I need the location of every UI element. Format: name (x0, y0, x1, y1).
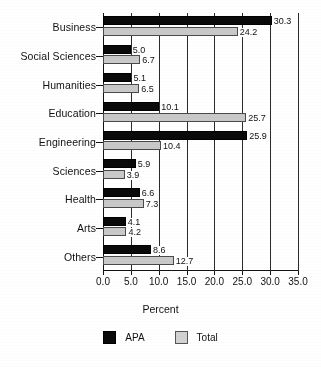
x-tick-label: 20.0 (205, 277, 224, 287)
x-tick-label: 10.0 (149, 277, 168, 287)
bar-group: 30.324.2 (103, 13, 298, 42)
bar-apa: 5.9 (103, 159, 136, 168)
bar-value-label: 8.6 (152, 246, 167, 255)
bar-value-label: 24.2 (239, 28, 259, 37)
bar-value-label: 4.2 (127, 228, 142, 237)
bar-total: 4.2 (103, 227, 126, 236)
x-tick-label: 15.0 (177, 277, 196, 287)
y-tick (96, 113, 103, 114)
bar-value-label: 25.9 (248, 132, 268, 141)
y-tick (96, 142, 103, 143)
x-tick (131, 271, 132, 275)
plot-area: 30.324.25.06.75.16.510.125.725.910.45.93… (103, 13, 298, 271)
bar-group: 6.67.3 (103, 185, 298, 214)
x-tick (242, 271, 243, 275)
bar-group: 4.14.2 (103, 214, 298, 243)
bar-group: 5.06.7 (103, 42, 298, 71)
bar-value-label: 6.6 (141, 189, 156, 198)
bar-apa: 6.6 (103, 188, 140, 197)
bar-total: 7.3 (103, 199, 144, 208)
y-tick (96, 56, 103, 57)
bar-total: 25.7 (103, 113, 246, 122)
y-tick (96, 85, 103, 86)
x-tick-label: 25.0 (233, 277, 252, 287)
x-tick (103, 271, 104, 275)
category-label: Arts (77, 222, 96, 234)
category-label: Humanities (42, 79, 96, 91)
gridline (298, 13, 299, 271)
gray-square-swatch (175, 331, 188, 344)
x-tick-label: 35.0 (288, 277, 307, 287)
category-label: Engineering (39, 136, 96, 148)
y-tick (96, 228, 103, 229)
bar-apa: 4.1 (103, 217, 126, 226)
y-tick (96, 171, 103, 172)
category-label: Health (65, 193, 96, 205)
bar-value-label: 5.0 (132, 46, 147, 55)
bar-group: 5.93.9 (103, 156, 298, 185)
bar-total: 12.7 (103, 256, 174, 265)
category-label: Business (53, 21, 96, 33)
black-square-swatch (103, 331, 116, 344)
bar-value-label: 6.5 (140, 85, 155, 94)
bar-apa: 5.0 (103, 45, 131, 54)
legend-item-total: Total (175, 331, 218, 344)
bar-total: 3.9 (103, 170, 125, 179)
legend-label-total: Total (197, 332, 218, 343)
x-tick (270, 271, 271, 275)
y-tick (96, 27, 103, 28)
legend-item-apa: APA (103, 331, 144, 344)
bar-apa: 25.9 (103, 131, 247, 140)
legend-label-apa: APA (125, 332, 144, 343)
bar-value-label: 5.1 (132, 74, 147, 83)
bar-apa: 8.6 (103, 245, 151, 254)
bar-value-label: 5.9 (137, 160, 152, 169)
category-label: Social Sciences (20, 50, 96, 62)
bar-value-label: 7.3 (145, 200, 160, 209)
y-tick (96, 257, 103, 258)
bar-value-label: 4.1 (127, 218, 142, 227)
bar-value-label: 30.3 (273, 17, 293, 26)
bar-apa: 5.1 (103, 73, 131, 82)
x-tick (298, 271, 299, 275)
x-axis-title: Percent (0, 303, 321, 315)
bar-group: 25.910.4 (103, 128, 298, 157)
category-label: Others (64, 251, 96, 263)
category-label: Education (48, 107, 96, 119)
bar-value-label: 6.7 (141, 56, 156, 65)
bar-apa: 30.3 (103, 16, 272, 25)
bar-total: 6.5 (103, 84, 139, 93)
x-tick (187, 271, 188, 275)
category-label: Sciences (53, 165, 96, 177)
bar-group: 10.125.7 (103, 99, 298, 128)
bar-value-label: 10.4 (162, 142, 182, 151)
x-tick (214, 271, 215, 275)
bar-apa: 10.1 (103, 102, 159, 111)
bar-group: 8.612.7 (103, 242, 298, 271)
x-tick-label: 5.0 (124, 277, 138, 287)
bar-value-label: 10.1 (160, 103, 180, 112)
bar-value-label: 3.9 (126, 171, 141, 180)
x-tick-label: 0.0 (96, 277, 110, 287)
bar-group: 5.16.5 (103, 70, 298, 99)
bar-total: 6.7 (103, 55, 140, 64)
x-tick-label: 30.0 (260, 277, 279, 287)
bar-total: 24.2 (103, 27, 238, 36)
bar-chart: 30.324.25.06.75.16.510.125.725.910.45.93… (0, 0, 321, 367)
chart-legend: APA Total (0, 331, 321, 344)
y-tick (96, 199, 103, 200)
x-tick (159, 271, 160, 275)
bar-value-label: 12.7 (175, 257, 195, 266)
bar-value-label: 25.7 (247, 114, 267, 123)
bar-total: 10.4 (103, 141, 161, 150)
